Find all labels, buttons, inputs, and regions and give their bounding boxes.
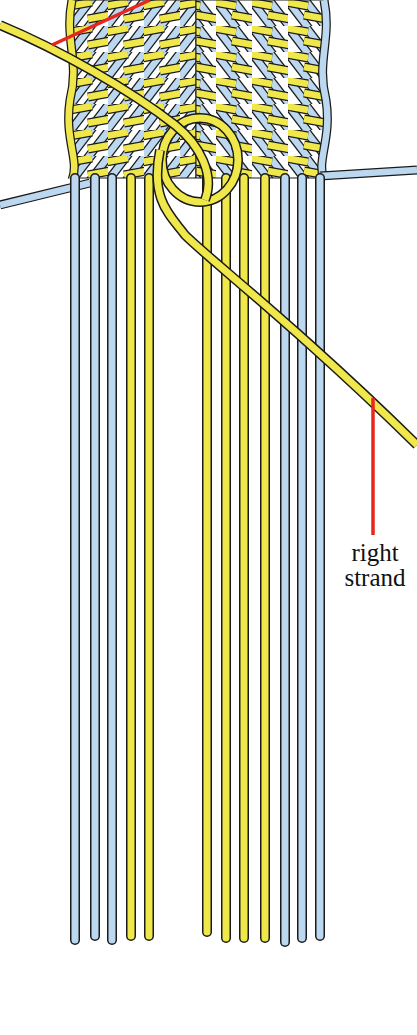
right-strand-label-line2: strand xyxy=(335,565,415,590)
right-strand-label-line1: right xyxy=(335,540,415,565)
braid-diagram xyxy=(0,0,417,1035)
hanging-strands xyxy=(75,178,320,942)
right-strand-label: right strand xyxy=(335,540,415,590)
